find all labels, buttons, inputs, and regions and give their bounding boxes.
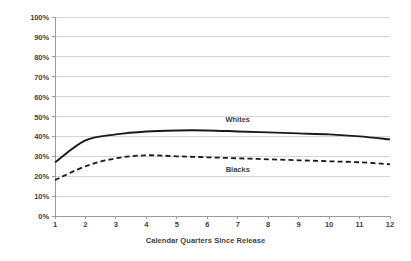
y-axis-tick-label: 40% <box>0 132 49 141</box>
x-axis-title: Calendar Quarters Since Release <box>0 236 411 245</box>
x-axis-tick-label: 4 <box>134 220 158 229</box>
x-axis-tick-label: 8 <box>256 220 280 229</box>
y-axis-tick-label: 60% <box>0 92 49 101</box>
x-axis-tick-label: 7 <box>226 220 250 229</box>
y-axis-tick-label: 10% <box>0 192 49 201</box>
x-axis-tick-label: 11 <box>348 220 372 229</box>
x-axis-tick-label: 10 <box>317 220 341 229</box>
y-axis-tick-label: 90% <box>0 32 49 41</box>
y-axis-tick-label: 0% <box>0 212 49 221</box>
x-axis-tick-label: 12 <box>378 220 402 229</box>
y-axis-tick-label: 100% <box>0 13 49 22</box>
y-axis-tick-label: 80% <box>0 52 49 61</box>
series-label-whites: Whites <box>225 115 250 124</box>
x-axis-tick-label: 2 <box>73 220 97 229</box>
x-axis-tick-label: 6 <box>195 220 219 229</box>
series-label-blacks: Blacks <box>226 165 250 174</box>
x-axis-tick-label: 5 <box>165 220 189 229</box>
y-axis-tick-label: 30% <box>0 152 49 161</box>
chart-container: 0%10%20%30%40%50%60%70%80%90%100% 123456… <box>0 0 411 261</box>
y-axis-tick-label: 70% <box>0 72 49 81</box>
y-axis-tick-label: 50% <box>0 112 49 121</box>
x-axis-tick-label: 9 <box>287 220 311 229</box>
x-axis-tick-label: 1 <box>43 220 67 229</box>
y-axis-tick-label: 20% <box>0 172 49 181</box>
x-axis-tick-label: 3 <box>104 220 128 229</box>
series-line-whites <box>55 130 390 162</box>
